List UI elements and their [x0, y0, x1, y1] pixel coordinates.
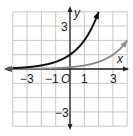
x-tick-neg1: −1 [45, 72, 59, 86]
x-tick-1: 1 [81, 72, 88, 86]
origin-label: O [61, 72, 70, 86]
y-axis-label: y [73, 6, 81, 20]
y-tick-3: 3 [61, 20, 68, 34]
black-curve-arrow-icon [93, 12, 99, 20]
graph: x y −3 −1 O 1 3 3 −3 [0, 0, 133, 136]
y-tick-neg3: −3 [55, 106, 69, 120]
y-axis-down-arrow-icon [68, 124, 73, 130]
y-axis-arrow-icon [68, 6, 73, 12]
x-axis-arrow-icon [123, 67, 129, 72]
curves-left-arrow-icon [5, 66, 12, 72]
x-axis-label: x [116, 52, 124, 66]
x-tick-neg3: −3 [20, 72, 34, 86]
x-tick-3: 3 [110, 72, 117, 86]
